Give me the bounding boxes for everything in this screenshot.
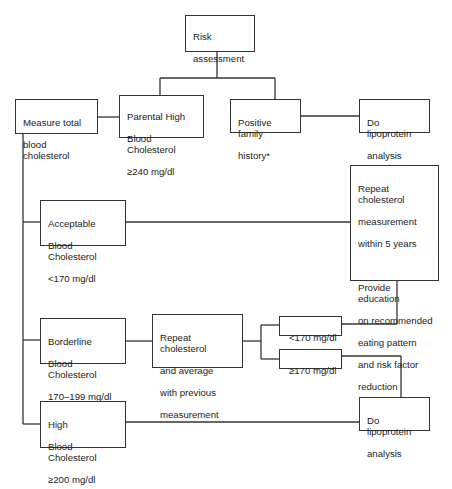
node-text: reduction [358, 381, 433, 392]
ge170-node: ≥170 mg/dl [279, 349, 342, 369]
node-text: within 5 years [358, 238, 433, 249]
node-text: Repeat cholesterol [160, 332, 237, 354]
positive-family-node: Positive family history* [230, 99, 301, 133]
node-text: ≥170 mg/dl [289, 365, 341, 376]
node-text: assessment [193, 53, 249, 64]
lt170-node: <170 mg/dl [279, 316, 342, 336]
node-text: <170 mg/dl [48, 273, 120, 284]
node-text: and average [160, 365, 237, 376]
node-text: and risk factor [358, 359, 433, 370]
node-text: Borderline [48, 336, 120, 347]
node-text: Blood Cholesterol [127, 133, 198, 155]
node-text: Blood Cholesterol [48, 358, 120, 380]
node-text: Acceptable [48, 218, 120, 229]
node-text: blood cholesterol [23, 139, 92, 161]
acceptable-node: Acceptable Blood Cholesterol <170 mg/dl [40, 200, 126, 246]
node-text: Do lipoprotein [367, 415, 424, 437]
node-text: Risk [193, 31, 249, 42]
node-text: analysis [367, 150, 424, 161]
node-text: with previous [160, 387, 237, 398]
borderline-node: Borderline Blood Cholesterol 170–199 mg/… [40, 318, 126, 364]
high-node: High Blood Cholesterol ≥200 mg/dl [40, 401, 126, 448]
node-text: measurement [160, 409, 237, 420]
node-text: Parental High [127, 111, 198, 122]
node-text: measurement [358, 216, 433, 227]
node-text: ≥240 mg/dl [127, 166, 198, 177]
lipoprotein-bottom-node: Do lipoprotein analysis [359, 397, 430, 431]
node-text: eating pattern [358, 337, 433, 348]
node-text: High [48, 419, 120, 430]
node-text: Positive family [238, 117, 295, 139]
node-text: on recommended [358, 315, 433, 326]
node-text: Repeat cholesterol [358, 183, 433, 205]
node-text: Do lipoprotein [367, 117, 424, 139]
risk-assessment-node: Risk assessment [185, 15, 255, 52]
repeat-5yr-node: Repeat cholesterol measurement within 5 … [350, 165, 439, 281]
node-text: Blood Cholesterol [48, 240, 120, 262]
node-text: analysis [367, 448, 424, 459]
node-text: ≥200 mg/dl [48, 474, 120, 485]
node-text: Measure total [23, 117, 92, 128]
node-text: <170 mg/dl [289, 332, 341, 343]
lipoprotein-top-node: Do lipoprotein analysis [359, 99, 430, 133]
node-text: Blood Cholesterol [48, 441, 120, 463]
node-text: Provide education [358, 282, 433, 304]
node-text: history* [238, 150, 295, 161]
measure-total-node: Measure total blood cholesterol [15, 99, 98, 134]
repeat-average-node: Repeat cholesterol and average with prev… [152, 314, 243, 368]
parental-high-node: Parental High Blood Cholesterol ≥240 mg/… [119, 95, 204, 138]
